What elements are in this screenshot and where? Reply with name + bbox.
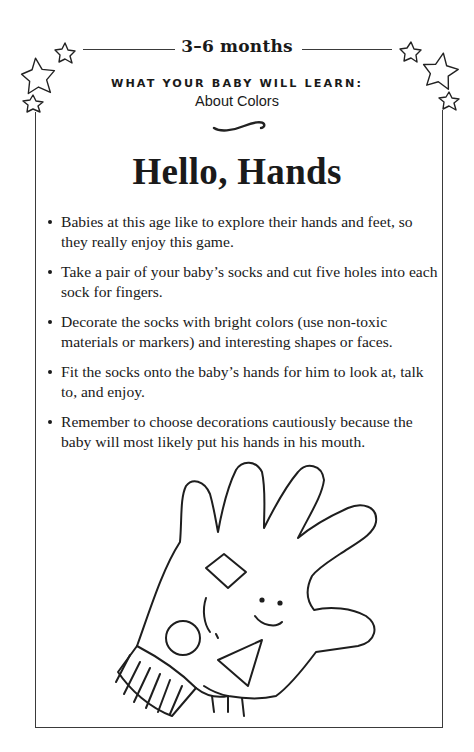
sock-hand-illustration-icon [100, 450, 400, 730]
learn-topic: About Colors [0, 93, 474, 109]
frame-left-border [35, 112, 36, 727]
age-range-heading: 3–6 months [0, 36, 474, 56]
step-item: Remember to choose decorations cautiousl… [48, 412, 438, 452]
step-item: Babies at this age like to explore their… [48, 212, 438, 252]
step-item: Fit the socks onto the baby’s hands for … [48, 362, 438, 402]
activity-steps-list: Babies at this age like to explore their… [48, 212, 438, 462]
frame-right-border [442, 110, 443, 727]
swash-divider-icon [210, 118, 270, 134]
learn-label: WHAT YOUR BABY WILL LEARN: [0, 77, 474, 90]
step-item: Decorate the socks with bright colors (u… [48, 312, 438, 352]
step-item: Take a pair of your baby’s socks and cut… [48, 262, 438, 302]
activity-title: Hello, Hands [0, 150, 474, 193]
